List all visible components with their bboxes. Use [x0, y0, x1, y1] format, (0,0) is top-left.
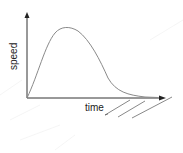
- x-axis-arrowhead-icon: [159, 96, 166, 101]
- y-axis: [25, 12, 30, 98]
- x-axis-label: time: [85, 103, 104, 113]
- y-axis-arrowhead-icon: [25, 12, 30, 18]
- speed-curve: [27, 27, 158, 98]
- hand-drawn-strokes: [105, 97, 172, 118]
- x-axis: [27, 96, 166, 101]
- y-axis-label: speed: [9, 43, 19, 70]
- speed-time-diagram: [0, 0, 183, 153]
